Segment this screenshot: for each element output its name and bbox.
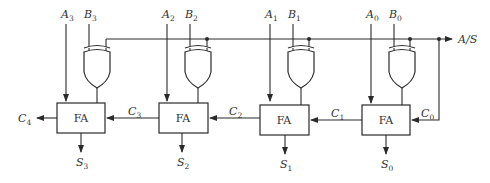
- stage-3: A3 B3 FA S3 C4: [18, 8, 110, 171]
- control-label: A/S: [457, 33, 478, 46]
- svg-text:FA: FA: [176, 112, 192, 125]
- input-b1-label: B1: [287, 8, 301, 23]
- stage-0: A0 B0 FA S0: [362, 8, 415, 173]
- svg-text:FA: FA: [74, 112, 90, 125]
- xor-gate-1: [288, 46, 314, 89]
- xor-gate-2: [185, 46, 211, 89]
- input-a3-label: A3: [60, 8, 74, 23]
- svg-text:FA: FA: [379, 114, 395, 127]
- sum-s0-label: S0: [381, 158, 394, 173]
- svg-text:FA: FA: [277, 114, 293, 127]
- input-a1-label: A1: [264, 8, 278, 23]
- carry-c3-label: C3: [128, 105, 141, 120]
- carry-c4-label: C4: [18, 112, 31, 127]
- input-b0-label: B0: [388, 8, 402, 23]
- stage-2: A2 B2 FA S2: [159, 8, 211, 171]
- xor-gate-3: [84, 46, 110, 89]
- carry-c2-label: C2: [229, 105, 242, 120]
- control-line: A/S: [106, 33, 478, 46]
- adder-subtractor-diagram: A/S A3 B3 FA S3 C4 C3 A2 B2: [0, 0, 490, 183]
- carry-c1-label: C1: [331, 107, 344, 122]
- input-a2-label: A2: [161, 8, 175, 23]
- input-b3-label: B3: [83, 8, 97, 23]
- input-a0-label: A0: [365, 8, 379, 23]
- sum-s3-label: S3: [76, 156, 89, 171]
- xor-gate-0: [389, 46, 415, 89]
- sum-s2-label: S2: [177, 156, 190, 171]
- carry-c0-label: C0: [421, 107, 434, 122]
- input-b2-label: B2: [184, 8, 198, 23]
- sum-s1-label: S1: [280, 158, 292, 173]
- stage-1: A1 B1 FA S1: [260, 8, 314, 173]
